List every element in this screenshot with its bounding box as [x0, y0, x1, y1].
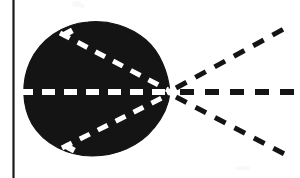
convergence-vertex: [167, 89, 174, 96]
figure-root: [0, 0, 300, 178]
figure-canvas: [0, 0, 300, 178]
